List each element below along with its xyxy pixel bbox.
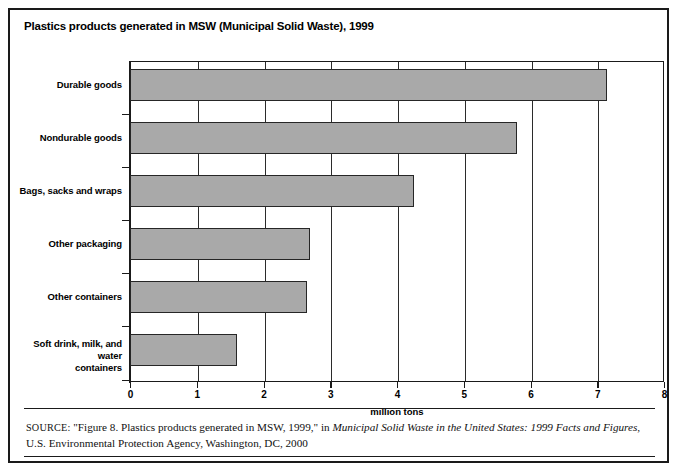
category-tick <box>122 220 129 221</box>
category-label-other-containers: Other containers <box>10 291 122 303</box>
x-tick <box>397 382 398 388</box>
bar-nondurable-goods <box>130 122 517 154</box>
x-tick <box>264 382 265 388</box>
x-tick-label-7: 7 <box>586 389 610 400</box>
category-label-line: Other packaging <box>10 238 122 250</box>
x-tick-label-8: 8 <box>653 389 677 400</box>
category-label-line: Soft drink, milk, and water <box>10 338 122 362</box>
category-tick <box>122 273 129 274</box>
x-tick-label-0: 0 <box>119 389 143 400</box>
source-publication-title: Municipal Solid Waste in the United Stat… <box>332 421 637 433</box>
x-tick <box>464 382 465 388</box>
source-note: SOURCE: "Figure 8. Plastics products gen… <box>26 420 655 450</box>
category-label-line: Durable goods <box>10 79 122 91</box>
bar-row <box>130 334 664 366</box>
bar-row <box>130 69 664 101</box>
bar-durable-goods <box>130 69 607 101</box>
bar-other-packaging <box>130 228 310 260</box>
bar-row <box>130 122 664 154</box>
source-kicker: SOURCE: <box>26 422 70 433</box>
category-label-other-packaging: Other packaging <box>10 238 122 250</box>
x-tick <box>130 382 131 388</box>
source-divider <box>24 408 655 409</box>
category-tick <box>122 380 129 381</box>
x-tick-label-4: 4 <box>386 389 410 400</box>
bar-soft-drink-milk-water-containers <box>130 334 237 366</box>
category-label-line: Other containers <box>10 291 122 303</box>
bar-row <box>130 228 664 260</box>
x-tick-label-2: 2 <box>252 389 276 400</box>
source-text-part1: "Figure 8. Plastics products generated i… <box>70 421 332 433</box>
x-tick <box>597 382 598 388</box>
x-tick <box>197 382 198 388</box>
bar-row <box>130 281 664 313</box>
bar-other-containers <box>130 281 307 313</box>
x-tick <box>531 382 532 388</box>
bar-row <box>130 175 664 207</box>
x-tick <box>330 382 331 388</box>
x-tick-label-6: 6 <box>519 389 543 400</box>
figure-frame: Plastics products generated in MSW (Muni… <box>8 8 669 463</box>
category-label-soft-drink-milk-water-containers: Soft drink, milk, and water containers <box>10 338 122 374</box>
category-label-line: Nondurable goods <box>10 132 122 144</box>
category-tick <box>122 326 129 327</box>
x-tick-label-5: 5 <box>452 389 476 400</box>
category-tick <box>122 167 129 168</box>
x-tick-label-3: 3 <box>319 389 343 400</box>
bar-bags-sacks-wraps <box>130 175 414 207</box>
x-tick <box>664 382 665 388</box>
category-tick <box>122 114 129 115</box>
source-bottom-rule <box>24 456 655 457</box>
category-label-nondurable-goods: Nondurable goods <box>10 132 122 144</box>
category-label-line: containers <box>10 362 122 374</box>
category-label-bags-sacks-wraps: Bags, sacks and wraps <box>10 185 122 197</box>
category-label-line: Bags, sacks and wraps <box>10 185 122 197</box>
chart-plot: Durable goods Nondurable goods Bags, sac… <box>10 10 671 410</box>
category-label-durable-goods: Durable goods <box>10 79 122 91</box>
x-tick-label-1: 1 <box>185 389 209 400</box>
